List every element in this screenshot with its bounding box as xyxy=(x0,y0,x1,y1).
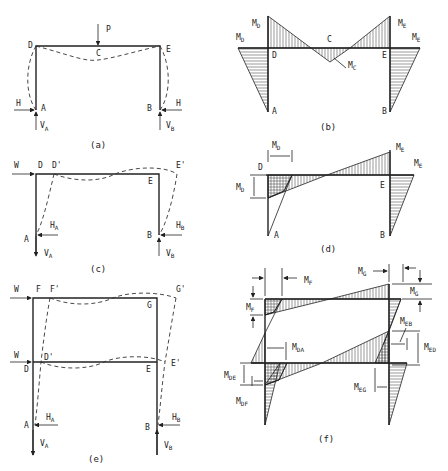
label-h-left: H xyxy=(16,99,21,108)
label-d: D xyxy=(24,365,29,374)
label-d: D xyxy=(38,161,43,170)
label-b: B xyxy=(145,423,150,432)
moment-area-da-column xyxy=(251,333,265,363)
leader-mc xyxy=(334,58,346,68)
label-me-right: ME xyxy=(414,159,423,169)
deflected-column-right xyxy=(159,174,177,235)
label-me-top: ME xyxy=(398,19,407,29)
moment-area-upper-right xyxy=(330,284,389,299)
label-f: F xyxy=(36,285,41,294)
label-vb: VB xyxy=(164,441,173,451)
label-d: D xyxy=(28,41,33,50)
label-b: B xyxy=(147,231,152,240)
deflected-column-left xyxy=(28,46,36,110)
label-f-prime: F' xyxy=(50,285,60,294)
label-mf-v: MF xyxy=(246,303,255,313)
moment-area-d-beam xyxy=(268,16,311,48)
caption-f: (f) xyxy=(318,434,334,444)
moment-area-column-b xyxy=(389,363,407,425)
label-e: E xyxy=(380,181,385,190)
label-va: VA xyxy=(44,249,53,259)
leader-meb xyxy=(400,328,406,342)
label-mg-h: MG xyxy=(358,267,367,277)
label-mdf: MDF xyxy=(236,397,248,407)
label-e: E xyxy=(146,365,151,374)
label-b: B xyxy=(147,104,152,113)
label-a: A xyxy=(24,421,29,430)
label-g-prime: G' xyxy=(176,285,186,294)
label-d-prime: D' xyxy=(44,353,54,362)
label-c: C xyxy=(96,49,101,58)
label-vb: VB xyxy=(166,249,175,259)
caption-c: (c) xyxy=(90,264,106,274)
label-ha: HA xyxy=(50,221,59,231)
label-me-right: ME xyxy=(412,33,421,43)
label-b: B xyxy=(382,107,387,116)
label-h-right: H xyxy=(176,99,181,108)
caption-d: (d) xyxy=(320,244,336,254)
label-g: G xyxy=(147,301,152,310)
panel-c: W D D' E' E HA HB A B VA VB (c) xyxy=(12,161,186,274)
label-hb: HB xyxy=(176,221,185,231)
label-me-top: ME xyxy=(396,143,405,153)
label-e-prime: E' xyxy=(171,359,181,368)
label-mf-h: MF xyxy=(304,276,313,286)
frame-c xyxy=(36,174,159,255)
moment-area-c xyxy=(311,48,350,62)
deflected-column-right xyxy=(160,46,168,110)
label-ha: HA xyxy=(46,413,55,423)
moment-area-e-beam xyxy=(350,16,390,48)
caption-b: (b) xyxy=(320,122,336,132)
moment-area-beam-right xyxy=(327,152,390,175)
moment-area-column-a xyxy=(238,48,268,112)
label-md-v: MD xyxy=(236,183,245,193)
panel-f: MF MF MG MG MEB MDA MED MDE MDF MEG (f) xyxy=(224,264,436,444)
label-mda: MDA xyxy=(292,343,304,353)
label-hb: HB xyxy=(172,413,181,423)
label-e: E xyxy=(382,51,387,60)
label-mc: MC xyxy=(348,61,357,71)
label-a: A xyxy=(272,107,277,116)
label-med: MED xyxy=(424,343,436,353)
label-d: D xyxy=(272,51,277,60)
label-c: C xyxy=(327,35,332,44)
caption-a: (a) xyxy=(90,140,106,150)
moment-area-column-b xyxy=(390,48,420,112)
label-d: D xyxy=(258,163,263,172)
panel-e: W F F' G' G W D' D E E' HA HB A B VA VB … xyxy=(10,285,186,464)
label-a: A xyxy=(24,235,29,244)
label-b: B xyxy=(380,231,385,240)
moment-area-column-b xyxy=(390,175,414,236)
caption-e: (e) xyxy=(88,454,104,464)
label-va: VA xyxy=(40,439,49,449)
label-va: VA xyxy=(40,121,49,132)
label-vb: VB xyxy=(166,121,175,132)
label-e: E xyxy=(148,177,153,186)
label-meb: MEB xyxy=(400,317,412,327)
label-mg-v: MG xyxy=(410,287,419,297)
label-a: A xyxy=(41,104,46,113)
panel-b: MD MD ME ME C D E MC A B (b) xyxy=(236,16,421,132)
label-e: E xyxy=(166,45,171,54)
structural-frames-figure: P D C E H A B H VA VB (a) MD MD ME ME C … xyxy=(0,0,448,471)
label-w-top: W xyxy=(14,285,19,294)
label-md-left: MD xyxy=(236,33,245,43)
label-md-h: MD xyxy=(272,141,281,151)
panel-d: MD MD D ME ME E A B (d) xyxy=(236,141,423,254)
label-e-prime: E' xyxy=(176,161,186,170)
label-d-prime: D' xyxy=(52,161,62,170)
label-a: A xyxy=(274,231,279,240)
label-mde: MDE xyxy=(224,371,236,381)
panel-a: P D C E H A B H VA VB (a) xyxy=(14,24,182,150)
label-w: W xyxy=(14,161,19,170)
label-p: P xyxy=(106,25,111,34)
frame-e-columns xyxy=(33,298,157,455)
label-w-mid: W xyxy=(14,351,19,360)
label-md-top: MD xyxy=(252,19,261,29)
label-meg: MEG xyxy=(354,383,366,393)
